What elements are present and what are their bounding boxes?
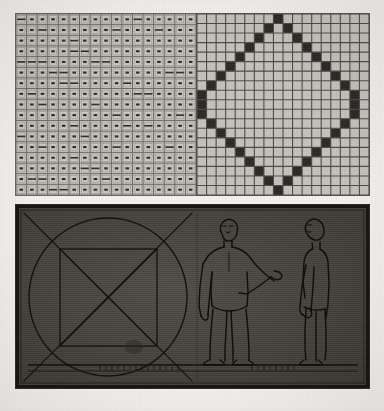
frontal-torso-left [211,272,212,306]
scene-panel [16,205,369,388]
fine-grid-panel [16,14,196,195]
frontal-torso-right [247,272,248,306]
diamond-grid-svg [197,14,369,195]
plate-smudge [125,340,143,354]
scene-svg [16,205,369,388]
engraving-plate [0,0,384,411]
fine-grid-svg [16,14,196,195]
diamond-grid-panel [197,14,369,195]
